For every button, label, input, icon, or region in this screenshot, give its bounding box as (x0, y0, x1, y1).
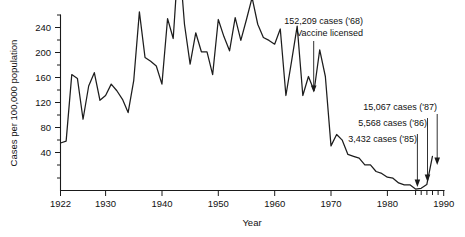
annotation-vaccine-line1: 152,209 cases ('68) (284, 16, 363, 26)
x-tick-label-1950: 1950 (208, 198, 229, 209)
x-tick-label-1930: 1930 (95, 198, 116, 209)
y-tick-label-200: 200 (35, 47, 51, 58)
measles-incidence-chart: 240 200 160 120 80 40 Cases per 100,000 … (0, 0, 465, 237)
annotation-cases-1985: 3,432 cases ('85) (348, 134, 420, 187)
annotation-1985-text: 3,432 cases ('85) (348, 134, 417, 144)
y-tick-label-160: 160 (35, 72, 51, 83)
x-axis-title: Year (242, 217, 261, 228)
x-tick-label-1960: 1960 (264, 198, 285, 209)
annotation-1985-arrow-icon (415, 180, 421, 188)
annotation-1986-arrow-icon (425, 175, 431, 183)
x-tick-label-1940: 1940 (151, 198, 172, 209)
y-tick-label-40: 40 (40, 147, 51, 158)
annotation-cases-1986: 5,568 cases ('86) (358, 118, 430, 182)
measles-incidence-line (61, 0, 433, 189)
annotation-vaccine-licensed: 152,209 cases ('68) Vaccine licensed (284, 16, 363, 93)
x-tick-label-1990: 1990 (433, 198, 454, 209)
y-tick-label-240: 240 (35, 22, 51, 33)
y-axis: 240 200 160 120 80 40 Cases per 100,000 … (8, 15, 61, 190)
annotation-1986-text: 5,568 cases ('86) (358, 118, 427, 128)
x-tick-label-1922: 1922 (50, 198, 71, 209)
annotation-1987-arrow-icon (434, 158, 440, 166)
x-tick-label-1970: 1970 (320, 198, 341, 209)
chart-canvas: 240 200 160 120 80 40 Cases per 100,000 … (0, 0, 465, 237)
x-tick-label-1980: 1980 (377, 198, 398, 209)
y-tick-label-80: 80 (40, 122, 51, 133)
annotation-1987-text: 15,067 cases ('87) (363, 102, 437, 112)
y-axis-title: Cases per 100,000 population (8, 40, 19, 167)
annotation-vaccine-line2: Vaccine licensed (296, 28, 363, 38)
y-tick-label-120: 120 (35, 97, 51, 108)
x-axis: 1922 1930 1940 1950 1960 1970 1980 1990 … (50, 191, 454, 229)
annotation-vaccine-arrow-icon (311, 86, 317, 93)
